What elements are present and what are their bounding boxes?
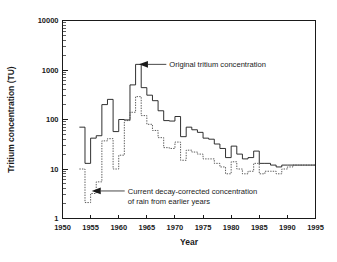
x-tick-label: 1995 (307, 223, 324, 232)
y-tick-label: 10 (50, 165, 58, 174)
annotation-label: of rain from earlier years (128, 197, 210, 206)
x-tick-label: 1975 (195, 223, 212, 232)
y-axis-tick-labels: 110100100010000 (38, 16, 59, 223)
annotation-arrow-icon (92, 188, 101, 195)
y-axis-title: Tritium concentration (TU) (6, 66, 16, 172)
annotation-label: Original tritium concentration (169, 60, 266, 69)
annotation-decay-corrected: Current decay-corrected concentrationof … (92, 187, 258, 207)
tritium-concentration-chart-figure: 110100100010000 195019551960196519701975… (0, 0, 337, 262)
x-tick-label: 1985 (251, 223, 268, 232)
x-tick-label: 1980 (223, 223, 240, 232)
axis-titles-group: YearTritium concentration (TU) (6, 66, 199, 246)
x-tick-label: 1950 (54, 223, 71, 232)
series-original-tritium (79, 64, 315, 167)
x-tick-label: 1960 (110, 223, 127, 232)
x-axis-tick-labels: 1950195519601965197019751980198519901995 (54, 223, 324, 232)
data-series-group (79, 64, 315, 202)
x-tick-label: 1970 (167, 223, 184, 232)
x-tick-label: 1965 (138, 223, 155, 232)
annotation-label: Current decay-corrected concentration (128, 187, 258, 196)
x-tick-label: 1955 (82, 223, 99, 232)
annotation-arrow-icon (139, 61, 148, 68)
annotations-group: Original tritium concentrationCurrent de… (92, 60, 266, 206)
y-tick-label: 10000 (38, 16, 59, 25)
y-tick-label: 1000 (42, 66, 59, 75)
x-axis-title: Year (180, 237, 199, 247)
chart-canvas: 110100100010000 195019551960196519701975… (0, 0, 337, 262)
x-tick-label: 1990 (279, 223, 296, 232)
annotation-original: Original tritium concentration (139, 60, 266, 69)
y-tick-label: 100 (46, 115, 59, 124)
